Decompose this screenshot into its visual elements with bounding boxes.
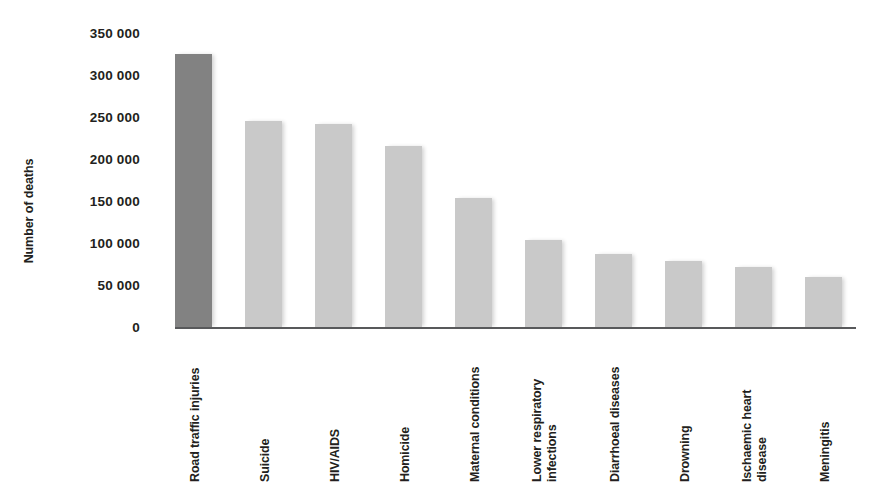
x-axis-label: Suicide bbox=[257, 332, 297, 482]
bar bbox=[805, 277, 842, 327]
y-axis-tick-300000: 300 000 bbox=[40, 68, 140, 83]
bar-chart: Number of deaths 350 000300 000250 00020… bbox=[0, 0, 881, 489]
x-axis-label: Meningitis bbox=[817, 332, 857, 482]
y-axis-tick-350000: 350 000 bbox=[40, 26, 140, 41]
x-axis-label: Ischaemic heart disease bbox=[740, 332, 780, 482]
x-axis-label: Drowning bbox=[677, 332, 717, 482]
x-axis-label: Maternal conditions bbox=[467, 332, 507, 482]
bar bbox=[735, 267, 772, 327]
y-axis-tick-100000: 100 000 bbox=[40, 236, 140, 251]
x-axis-line bbox=[175, 327, 856, 329]
x-axis-label: Homicide bbox=[397, 332, 437, 482]
bar bbox=[385, 146, 422, 327]
y-axis-tick-0: 0 bbox=[40, 320, 140, 335]
x-axis-label: Lower respiratory infections bbox=[530, 332, 570, 482]
x-axis-label: HIV/AIDS bbox=[327, 332, 367, 482]
y-axis-tick-200000: 200 000 bbox=[40, 152, 140, 167]
y-axis-tick-250000: 250 000 bbox=[40, 110, 140, 125]
bar bbox=[455, 198, 492, 327]
plot-area bbox=[175, 33, 855, 327]
x-axis-label: Road traffic injuries bbox=[187, 332, 227, 482]
x-axis-label: Diarrhoeal diseases bbox=[607, 332, 647, 482]
y-axis-tick-labels: 350 000300 000250 000200 000150 000100 0… bbox=[40, 0, 140, 489]
bar bbox=[175, 54, 212, 327]
bar bbox=[665, 261, 702, 327]
x-axis-category-labels: Road traffic injuriesSuicideHIV/AIDSHomi… bbox=[175, 334, 856, 489]
bar bbox=[245, 121, 282, 327]
y-axis-tick-50000: 50 000 bbox=[40, 278, 140, 293]
bar bbox=[525, 240, 562, 327]
bar bbox=[595, 254, 632, 327]
bar bbox=[315, 124, 352, 327]
y-axis-tick-150000: 150 000 bbox=[40, 194, 140, 209]
